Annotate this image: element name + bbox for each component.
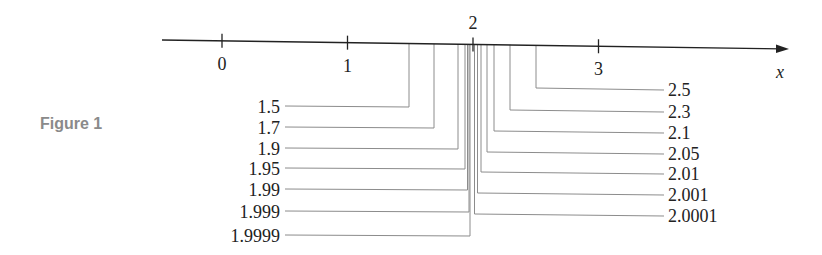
leader-lines bbox=[285, 44, 664, 236]
leader-line bbox=[475, 44, 665, 216]
value-label: 1.95 bbox=[249, 159, 281, 179]
tick-label: 3 bbox=[594, 59, 603, 79]
number-line-diagram: x0123 1.51.71.91.951.991.9991.99992.52.3… bbox=[0, 0, 822, 255]
value-label: 2.1 bbox=[668, 123, 691, 143]
value-label: 1.999 bbox=[240, 202, 281, 222]
leader-line bbox=[487, 45, 664, 154]
arrow-right-icon bbox=[776, 45, 789, 54]
value-label: 1.9 bbox=[258, 139, 281, 159]
leader-line bbox=[285, 44, 470, 236]
value-label: 2.5 bbox=[668, 80, 691, 100]
axis-variable-label: x bbox=[775, 62, 784, 82]
value-label: 1.99 bbox=[249, 180, 281, 200]
tick-label: 1 bbox=[343, 56, 352, 76]
leader-line bbox=[481, 45, 664, 174]
value-label: 1.5 bbox=[258, 97, 281, 117]
leader-line bbox=[510, 45, 664, 112]
tick-label: 2 bbox=[469, 13, 478, 33]
axis-line bbox=[162, 40, 781, 49]
value-label: 1.9999 bbox=[231, 226, 281, 246]
value-label: 2.3 bbox=[668, 102, 691, 122]
leader-line bbox=[285, 44, 434, 128]
tick-label: 0 bbox=[218, 54, 227, 74]
value-label: 2.0001 bbox=[668, 206, 718, 226]
value-label: 2.001 bbox=[668, 185, 709, 205]
leader-line bbox=[285, 44, 469, 212]
value-label: 2.05 bbox=[668, 144, 700, 164]
value-label: 1.7 bbox=[258, 118, 281, 138]
value-label: 2.01 bbox=[668, 164, 700, 184]
leader-line bbox=[285, 44, 458, 149]
x-axis: x0123 bbox=[162, 13, 789, 82]
